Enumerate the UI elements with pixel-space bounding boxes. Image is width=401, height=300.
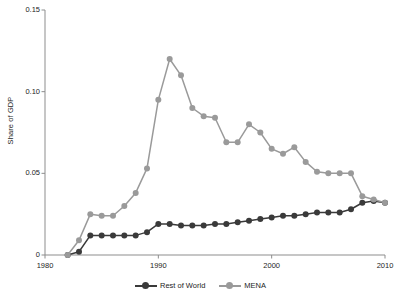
- data-point: [121, 232, 127, 238]
- series-rest-of-world: [65, 198, 388, 258]
- data-point: [144, 229, 150, 235]
- data-point: [269, 146, 275, 152]
- data-point: [212, 221, 218, 227]
- legend-label: Rest of World: [160, 281, 205, 290]
- data-point: [76, 237, 82, 243]
- plot-area: [0, 0, 401, 300]
- data-point: [189, 223, 195, 229]
- data-point: [337, 210, 343, 216]
- legend-dot-icon: [142, 282, 149, 289]
- data-point: [325, 170, 331, 176]
- data-point: [133, 190, 139, 196]
- data-point: [133, 232, 139, 238]
- data-point: [280, 151, 286, 157]
- data-point: [291, 213, 297, 219]
- legend-item: Rest of World: [135, 281, 205, 290]
- data-point: [235, 139, 241, 145]
- data-point: [99, 232, 105, 238]
- data-point: [348, 170, 354, 176]
- data-point: [223, 139, 229, 145]
- data-point: [359, 193, 365, 199]
- data-point: [121, 203, 127, 209]
- data-point: [110, 232, 116, 238]
- data-point: [178, 223, 184, 229]
- data-point: [167, 56, 173, 62]
- data-point: [167, 221, 173, 227]
- data-point: [257, 130, 263, 136]
- data-point: [155, 221, 161, 227]
- data-point: [337, 170, 343, 176]
- data-point: [87, 232, 93, 238]
- data-point: [155, 97, 161, 103]
- data-point: [110, 213, 116, 219]
- data-point: [76, 249, 82, 255]
- legend-label: MENA: [244, 281, 266, 290]
- data-point: [348, 206, 354, 212]
- legend-marker-icon: [219, 281, 241, 290]
- data-point: [382, 200, 388, 206]
- data-point: [257, 216, 263, 222]
- chart-legend: Rest of WorldMENA: [0, 281, 401, 290]
- data-point: [246, 218, 252, 224]
- data-point: [144, 165, 150, 171]
- data-point: [212, 115, 218, 121]
- data-point: [303, 211, 309, 217]
- data-point: [235, 219, 241, 225]
- data-point: [269, 214, 275, 220]
- data-point: [314, 210, 320, 216]
- data-point: [359, 200, 365, 206]
- data-point: [178, 72, 184, 78]
- data-point: [325, 210, 331, 216]
- series-mena: [65, 56, 388, 258]
- data-point: [201, 113, 207, 119]
- chart-container: Share of GDP 00.050.100.15 1980199020002…: [0, 0, 401, 300]
- legend-item: MENA: [219, 281, 266, 290]
- data-point: [87, 211, 93, 217]
- data-point: [371, 196, 377, 202]
- data-point: [314, 169, 320, 175]
- data-point: [291, 144, 297, 150]
- legend-marker-icon: [135, 281, 157, 290]
- data-point: [189, 105, 195, 111]
- series-line: [68, 201, 385, 255]
- legend-dot-icon: [226, 282, 233, 289]
- data-point: [201, 223, 207, 229]
- data-point: [246, 121, 252, 127]
- data-point: [223, 221, 229, 227]
- data-point: [303, 159, 309, 165]
- data-point: [65, 252, 71, 258]
- data-point: [280, 213, 286, 219]
- data-point: [99, 213, 105, 219]
